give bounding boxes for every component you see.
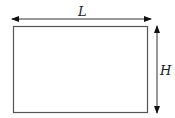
rectangle-diagram: L H <box>0 0 175 118</box>
length-label: L <box>77 4 87 19</box>
height-label: H <box>159 63 172 78</box>
rectangle-shape <box>14 27 148 113</box>
